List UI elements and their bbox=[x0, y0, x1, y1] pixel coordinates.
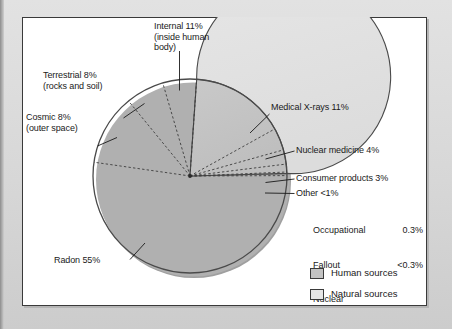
label-radon: Radon 55% bbox=[54, 255, 100, 266]
scan-edge bbox=[0, 0, 4, 329]
label-consumer-products: Consumer products 3% bbox=[296, 173, 388, 184]
detail-value-fallout: <0.3% bbox=[397, 260, 423, 272]
detail-row-occupational: Occupational 0.3% bbox=[313, 225, 423, 237]
label-nuclear-medicine: Nuclear medicine 4% bbox=[296, 145, 379, 156]
label-cosmic: Cosmic 8% (outer space) bbox=[26, 112, 78, 133]
label-internal-line1: Internal 11% bbox=[154, 21, 203, 31]
label-other: Other <1% bbox=[296, 188, 338, 199]
legend-swatch-natural-icon bbox=[310, 289, 324, 300]
label-terrestrial: Terrestrial 8% (rocks and soil) bbox=[43, 70, 102, 91]
label-internal-line2: (inside human bbox=[154, 32, 209, 42]
figure-root: Internal 11% (inside human body) Terrest… bbox=[0, 0, 452, 329]
leader-other bbox=[265, 193, 295, 194]
detail-value-occupational: 0.3% bbox=[402, 225, 423, 237]
label-cosmic-line1: Cosmic 8% bbox=[26, 112, 71, 122]
label-internal-line3: body) bbox=[154, 42, 176, 52]
label-cosmic-line2: (outer space) bbox=[26, 123, 78, 133]
legend-label-natural: Natural sources bbox=[331, 288, 398, 299]
pie-center-dot bbox=[188, 174, 192, 178]
label-internal: Internal 11% (inside human body) bbox=[154, 21, 209, 53]
label-terrestrial-line2: (rocks and soil) bbox=[43, 81, 102, 91]
detail-name-occupational: Occupational bbox=[313, 225, 366, 237]
legend-label-human: Human sources bbox=[331, 267, 398, 278]
label-terrestrial-line1: Terrestrial 8% bbox=[43, 70, 97, 80]
label-medical-xrays: Medical X-rays 11% bbox=[271, 102, 349, 113]
chart-stage: Internal 11% (inside human body) Terrest… bbox=[22, 17, 427, 306]
legend-swatch-human-icon bbox=[310, 268, 324, 279]
